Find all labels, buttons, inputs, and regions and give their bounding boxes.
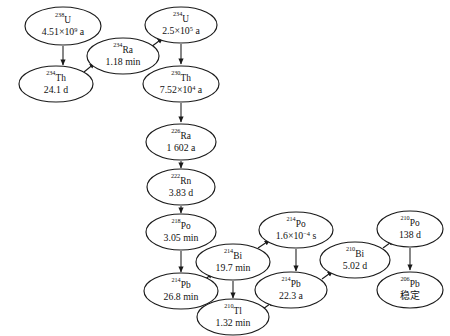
isotope-node-th230[interactable]: 230Th7.52×104 a <box>143 66 219 102</box>
isotope-halflife: 26.8 min <box>164 291 199 302</box>
isotope-halflife: 7.52×104 a <box>160 84 203 96</box>
isotope-node-rn222[interactable]: 222Rn3.83 d <box>147 169 215 205</box>
isotope-halflife: 1.18 min <box>106 56 141 67</box>
isotope-node-bi210[interactable]: 210Bi5.02 d <box>320 242 390 278</box>
isotope-halflife: 24.1 d <box>44 84 69 95</box>
isotope-node-bi214[interactable]: 214Bi19.7 min <box>196 244 270 280</box>
isotope-node-po214[interactable]: 214Po1.6×10−4 s <box>259 212 333 248</box>
isotope-halflife: 稳定 <box>400 289 420 301</box>
isotope-node-ra226[interactable]: 226Ra1 602 a <box>146 124 216 160</box>
isotope-node-u238[interactable]: 238U4.51×109 a <box>25 7 101 45</box>
isotope-node-th234[interactable]: 234Th24.1 d <box>19 66 93 102</box>
isotope-halflife: 22.3 a <box>279 290 304 301</box>
isotope-node-ra234[interactable]: 234Ra1.18 min <box>87 38 159 74</box>
node-layer: 238U4.51×109 a234U2.5×105 a234Ra1.18 min… <box>19 7 443 335</box>
isotope-halflife: 3.83 d <box>169 187 194 198</box>
isotope-halflife: 1.32 min <box>216 317 251 328</box>
isotope-halflife: 2.5×105 a <box>162 25 200 37</box>
isotope-node-pb214[interactable]: 214Pb26.8 min <box>144 273 218 309</box>
isotope-node-u234[interactable]: 234U2.5×105 a <box>145 7 217 43</box>
decay-chain-diagram: 238U4.51×109 a234U2.5×105 a234Ra1.18 min… <box>0 0 450 336</box>
isotope-node-po210[interactable]: 210Po138 d <box>377 211 443 247</box>
isotope-halflife: 1 602 a <box>167 142 196 153</box>
isotope-node-po218[interactable]: 218Po3.05 min <box>146 214 216 250</box>
isotope-node-pb206[interactable]: 206Pb稳定 <box>377 272 443 308</box>
isotope-node-tl210[interactable]: 210Tl1.32 min <box>197 299 269 335</box>
isotope-halflife: 138 d <box>399 229 421 240</box>
isotope-halflife: 4.51×109 a <box>42 26 85 38</box>
isotope-halflife: 1.6×10−4 s <box>276 230 317 242</box>
isotope-halflife: 5.02 d <box>343 260 368 271</box>
isotope-halflife: 19.7 min <box>216 262 251 273</box>
isotope-node-pb210[interactable]: 214Pb22.3 a <box>255 272 327 308</box>
isotope-halflife: 3.05 min <box>164 232 199 243</box>
